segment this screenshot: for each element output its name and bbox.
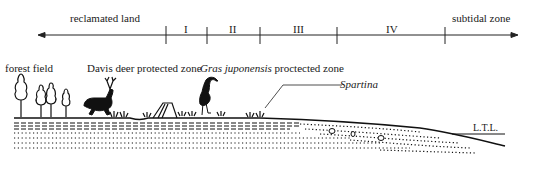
ground-profile [14,118,505,153]
deer-zone-label: Davis deer protected zone [87,63,202,74]
trees-icon [15,74,70,117]
zone-label-4: IV [386,24,398,35]
spartina-leader [265,85,342,108]
deer-icon [84,77,116,115]
arrow-left-icon [38,33,45,38]
zone-label-3: III [293,24,304,35]
diagram-graphic [0,0,536,174]
ltl-label: L.T.L. [473,123,498,133]
zone-label-2: II [229,24,236,35]
shells-icon [329,129,384,141]
crane-species-name: Gras juponensis [200,62,272,74]
zone-label-1: I [184,24,188,35]
grass-tufts-icon [110,111,264,117]
arrow-right-icon [511,33,518,38]
crane-icon [200,77,218,115]
dune-icon [153,103,177,118]
forest-field-label: forest field [5,63,53,74]
reclamated-land-label: reclamated land [70,13,140,24]
crane-zone-label: Gras juponensis proctected zone [200,63,344,74]
spartina-label: Spartina [340,79,378,90]
crane-zone-suffix: proctected zone [272,62,344,74]
coastal-zonation-diagram: reclamated land subtidal zone I II III I… [0,0,536,174]
zone-axis [38,26,518,44]
subtidal-zone-label: subtidal zone [452,13,510,24]
